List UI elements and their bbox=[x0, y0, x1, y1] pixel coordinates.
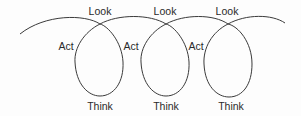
act-label-2: Act bbox=[123, 41, 138, 52]
act-label-3: Act bbox=[188, 41, 203, 52]
look-label-2: Look bbox=[154, 6, 177, 17]
loop-1 bbox=[75, 17, 166, 97]
lead-in-arc bbox=[20, 17, 100, 34]
look-label-3: Look bbox=[216, 6, 239, 17]
loop-2 bbox=[141, 17, 228, 97]
spiral-curve bbox=[0, 0, 301, 116]
look-think-act-diagram: Look Look Look Act Act Act Think Think T… bbox=[0, 0, 301, 116]
think-label-2: Think bbox=[153, 101, 179, 112]
think-label-3: Think bbox=[218, 101, 244, 112]
think-label-1: Think bbox=[87, 101, 113, 112]
loop-3 bbox=[204, 16, 285, 97]
act-label-1: Act bbox=[58, 41, 73, 52]
look-label-1: Look bbox=[89, 6, 112, 17]
